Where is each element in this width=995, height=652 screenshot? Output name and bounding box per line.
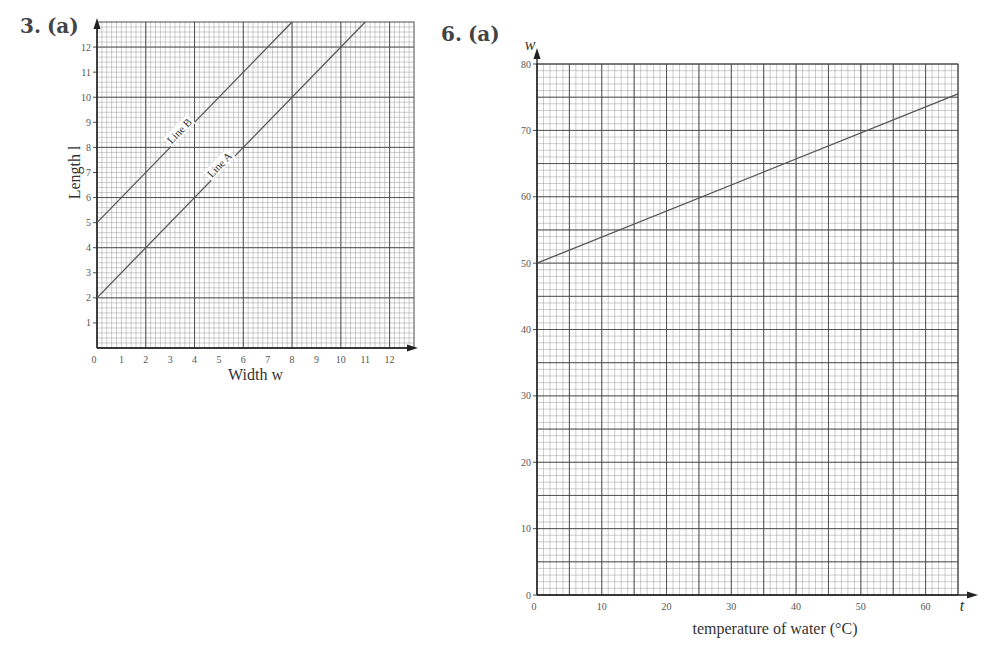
y-tick-label: 50 bbox=[521, 258, 531, 269]
y-tick-label: 40 bbox=[521, 324, 531, 335]
y-tick-label: 0 bbox=[526, 590, 531, 601]
y-axis-title: Length l bbox=[66, 145, 84, 199]
grid-major bbox=[97, 22, 414, 348]
y-tick-label: 9 bbox=[86, 117, 91, 128]
x-tick-label: 12 bbox=[385, 354, 395, 365]
y-tick-label: 70 bbox=[521, 125, 531, 136]
x-tick-label: 0 bbox=[532, 601, 537, 612]
y-tick-label: 4 bbox=[86, 242, 91, 253]
x-tick-label: 2 bbox=[143, 354, 148, 365]
y-tick-label: 8 bbox=[86, 142, 91, 153]
x-axis-title: temperature of water (°C) bbox=[693, 620, 858, 638]
y-tick-label: 6 bbox=[86, 192, 91, 203]
y-tick-label: 10 bbox=[521, 523, 531, 534]
y-axis-title: w bbox=[525, 36, 536, 53]
x-axis-arrow-icon bbox=[967, 592, 978, 599]
series-line bbox=[537, 94, 958, 263]
x-tick-label: 9 bbox=[314, 354, 319, 365]
x-tick-label: 0 bbox=[92, 354, 97, 365]
y-tick-label: 12 bbox=[81, 42, 91, 53]
y-tick-label: 7 bbox=[86, 167, 91, 178]
x-tick-label: 4 bbox=[192, 354, 197, 365]
line-label-line-a: Line A bbox=[203, 148, 235, 181]
x-tick-label: 20 bbox=[662, 601, 672, 612]
y-tick-label: 20 bbox=[521, 457, 531, 468]
y-tick-label: 60 bbox=[521, 191, 531, 202]
x-axis-title: Width w bbox=[228, 366, 283, 383]
y-tick-label: 30 bbox=[521, 390, 531, 401]
chart-3a: 0123456789101112123456789101112Line BLin… bbox=[66, 18, 418, 383]
y-tick-label: 2 bbox=[86, 292, 91, 303]
y-tick-label: 10 bbox=[81, 92, 91, 103]
x-tick-label: 7 bbox=[265, 354, 270, 365]
y-tick-label: 1 bbox=[86, 317, 91, 328]
y-tick-label: 11 bbox=[81, 67, 91, 78]
grid-minor bbox=[97, 22, 414, 348]
y-tick-label: 80 bbox=[521, 59, 531, 70]
chart-6a: 010203040506001020304050607080temperatur… bbox=[521, 36, 978, 638]
x-tick-label: 8 bbox=[290, 354, 295, 365]
tick-labels: 0123456789101112123456789101112 bbox=[81, 42, 395, 365]
y-axis-arrow-icon bbox=[94, 18, 101, 29]
x-axis-symbol: t bbox=[960, 597, 965, 614]
chart-length-vs-width: 0123456789101112123456789101112Line BLin… bbox=[0, 0, 995, 652]
x-tick-label: 11 bbox=[360, 354, 370, 365]
x-tick-label: 5 bbox=[216, 354, 221, 365]
x-tick-label: 30 bbox=[726, 601, 736, 612]
plot-frame bbox=[97, 22, 414, 348]
y-tick-label: 5 bbox=[86, 217, 91, 228]
x-tick-label: 10 bbox=[597, 601, 607, 612]
x-tick-label: 10 bbox=[336, 354, 346, 365]
y-tick-label: 3 bbox=[86, 267, 91, 278]
x-tick-label: 60 bbox=[921, 601, 931, 612]
x-tick-label: 6 bbox=[241, 354, 246, 365]
x-tick-label: 3 bbox=[168, 354, 173, 365]
x-tick-label: 50 bbox=[856, 601, 866, 612]
x-tick-label: 40 bbox=[791, 601, 801, 612]
x-tick-label: 1 bbox=[119, 354, 124, 365]
x-axis-arrow-icon bbox=[407, 345, 418, 352]
